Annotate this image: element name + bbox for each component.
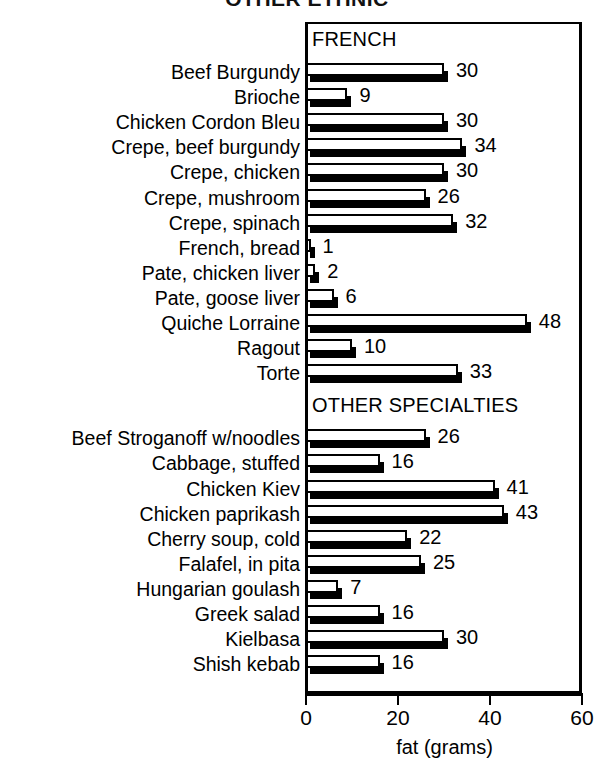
bar-row: Cabbage, stuffed16 xyxy=(0,452,614,477)
bar-face xyxy=(306,189,426,202)
bar-row: Brioche9 xyxy=(0,86,614,111)
bar-value-label: 30 xyxy=(456,59,478,81)
bar-row: Beef Stroganoff w/noodles26 xyxy=(0,427,614,452)
bar-value-label: 16 xyxy=(392,651,414,673)
bar-label: Quiche Lorraine xyxy=(0,312,306,334)
bar-face xyxy=(306,88,347,101)
bar xyxy=(306,214,461,236)
bar-label: Pate, chicken liver xyxy=(0,262,306,284)
bar-face xyxy=(306,655,380,668)
bar-row: Torte33 xyxy=(0,362,614,387)
bar-row: Shish kebab16 xyxy=(0,653,614,678)
bar xyxy=(306,454,388,476)
bar xyxy=(306,163,452,185)
bar-face xyxy=(306,480,495,493)
bar-label: Chicken paprikash xyxy=(0,503,306,525)
bar xyxy=(306,113,452,135)
bar-value-label: 34 xyxy=(474,134,496,156)
bar xyxy=(306,138,470,160)
bar-row: Crepe, chicken30 xyxy=(0,161,614,186)
bar-face xyxy=(306,530,407,543)
bar-face xyxy=(306,214,453,227)
bar-label: Cherry soup, cold xyxy=(0,528,306,550)
bar-row: Beef Burgundy30 xyxy=(0,61,614,86)
bar xyxy=(306,63,452,85)
bar xyxy=(306,314,535,336)
bar xyxy=(306,655,388,677)
x-axis-title: fat (grams) xyxy=(306,736,583,759)
bar-face xyxy=(306,555,421,568)
bar xyxy=(306,630,452,652)
x-tick xyxy=(305,693,307,705)
bar-face xyxy=(306,264,315,277)
bar-face xyxy=(306,505,504,518)
bar-face xyxy=(306,138,462,151)
bar-face xyxy=(306,630,444,643)
bar-face xyxy=(306,314,527,327)
x-tick xyxy=(489,693,491,705)
bar-value-label: 22 xyxy=(419,526,441,548)
bar-row: Pate, chicken liver2 xyxy=(0,262,614,287)
bar-value-label: 25 xyxy=(433,551,455,573)
bar-value-label: 26 xyxy=(438,425,460,447)
bar-face xyxy=(306,454,380,467)
bar-label: Chicken Kiev xyxy=(0,478,306,500)
bar xyxy=(306,364,466,386)
bar-label: Torte xyxy=(0,362,306,384)
bar-value-label: 7 xyxy=(350,576,361,598)
bar xyxy=(306,505,512,527)
bar-label: Cabbage, stuffed xyxy=(0,452,306,474)
x-tick-label: 60 xyxy=(552,706,612,730)
bar xyxy=(306,239,319,261)
bar xyxy=(306,480,503,502)
bar-value-label: 2 xyxy=(327,260,338,282)
bar-label: Shish kebab xyxy=(0,653,306,675)
bar-shadow xyxy=(310,247,315,258)
bar-face xyxy=(306,289,334,302)
bar-row: Crepe, beef burgundy34 xyxy=(0,136,614,161)
bar-row: Chicken Kiev41 xyxy=(0,478,614,503)
bar-row: Cherry soup, cold22 xyxy=(0,528,614,553)
bar-value-label: 33 xyxy=(470,360,492,382)
bar xyxy=(306,289,342,311)
x-tick-label: 0 xyxy=(276,706,336,730)
bar-label: Crepe, spinach xyxy=(0,212,306,234)
bar-label: Kielbasa xyxy=(0,628,306,650)
bar-face xyxy=(306,63,444,76)
bar-label: Falafel, in pita xyxy=(0,553,306,575)
bar-label: Brioche xyxy=(0,86,306,108)
bar-value-label: 16 xyxy=(392,601,414,623)
x-axis-line xyxy=(306,693,583,696)
bar xyxy=(306,605,388,627)
x-tick xyxy=(397,693,399,705)
bar-face xyxy=(306,580,338,593)
bar-face xyxy=(306,605,380,618)
bar xyxy=(306,88,355,110)
bar-face xyxy=(306,339,352,352)
bar-face xyxy=(306,239,311,252)
bar-face xyxy=(306,364,458,377)
bar-value-label: 16 xyxy=(392,450,414,472)
bar-value-label: 41 xyxy=(507,476,529,498)
bar xyxy=(306,339,360,361)
bar-row: Crepe, mushroom26 xyxy=(0,187,614,212)
bar-row: French, bread1 xyxy=(0,237,614,262)
bar-value-label: 6 xyxy=(346,285,357,307)
bar-value-label: 26 xyxy=(438,185,460,207)
bar-row: Falafel, in pita25 xyxy=(0,553,614,578)
bar xyxy=(306,555,429,577)
bar xyxy=(306,429,434,451)
chart-title: OTHER ETHNIC xyxy=(0,0,614,11)
bar-value-label: 30 xyxy=(456,159,478,181)
bar-face xyxy=(306,163,444,176)
bar-value-label: 30 xyxy=(456,109,478,131)
bar-row: Quiche Lorraine48 xyxy=(0,312,614,337)
bar xyxy=(306,264,323,286)
bar-row: Chicken Cordon Bleu30 xyxy=(0,111,614,136)
bar-label: Chicken Cordon Bleu xyxy=(0,111,306,133)
bar-row: Pate, goose liver6 xyxy=(0,287,614,312)
x-tick-label: 20 xyxy=(368,706,428,730)
bar xyxy=(306,580,346,602)
x-tick-label: 40 xyxy=(460,706,520,730)
bar-row: Hungarian goulash7 xyxy=(0,578,614,603)
